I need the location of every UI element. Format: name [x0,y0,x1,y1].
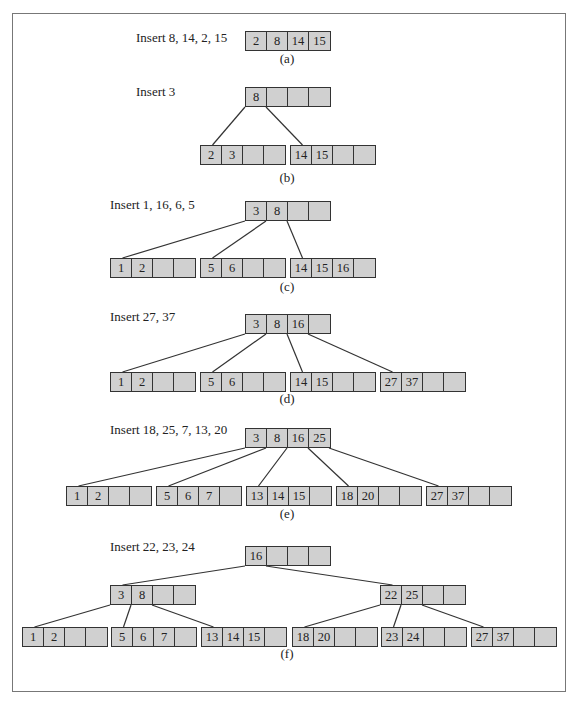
empty-key-slot [469,487,490,505]
node-key: 25 [309,429,330,447]
btree-node: 12 [22,627,108,647]
node-key: 13 [202,628,223,646]
btree-node: 1415 [290,145,376,165]
node-key: 20 [358,487,379,505]
node-key: 15 [312,146,333,164]
btree-node: 2324 [381,627,467,647]
btree-node: 1415 [290,372,376,392]
step-label-e: Insert 18, 25, 7, 13, 20 [110,422,227,438]
empty-key-slot [265,628,286,646]
empty-key-slot [335,628,356,646]
node-key: 3 [222,146,243,164]
step-label-b: Insert 3 [136,84,175,100]
empty-key-slot [309,88,330,106]
node-key: 1 [111,373,132,391]
node-key: 37 [448,487,469,505]
empty-key-slot [309,202,330,220]
node-key: 14 [288,32,309,50]
empty-key-slot [354,259,375,277]
node-key: 1 [67,487,88,505]
btree-node: 2225 [380,585,466,605]
empty-key-slot [264,146,285,164]
empty-key-slot [220,487,241,505]
panel-caption-f: (f) [281,646,294,662]
empty-key-slot [153,259,174,277]
node-key: 20 [314,628,335,646]
btree-node: 16 [245,546,331,566]
node-key: 6 [133,628,154,646]
empty-key-slot [445,628,466,646]
btree-node: 8 [245,87,331,107]
btree-node: 1820 [292,627,378,647]
node-key: 2 [88,487,109,505]
node-key: 16 [333,259,354,277]
btree-node: 1820 [336,486,422,506]
empty-key-slot [153,586,174,604]
empty-key-slot [153,373,174,391]
node-key: 2 [132,373,153,391]
empty-key-slot [174,259,195,277]
empty-key-slot [174,586,195,604]
empty-key-slot [535,628,556,646]
btree-node: 2737 [471,627,557,647]
empty-key-slot [444,586,465,604]
node-key: 1 [23,628,44,646]
node-key: 8 [267,202,288,220]
empty-key-slot [354,146,375,164]
node-key: 15 [289,487,310,505]
empty-key-slot [514,628,535,646]
node-key: 37 [402,373,423,391]
step-label-a: Insert 8, 14, 2, 15 [136,30,227,46]
node-key: 14 [268,487,289,505]
node-key: 18 [293,628,314,646]
btree-node: 3816 [245,314,331,334]
empty-key-slot [424,628,445,646]
node-key: 25 [402,586,423,604]
empty-key-slot [309,547,330,565]
empty-key-slot [130,487,151,505]
btree-node: 2737 [426,486,512,506]
node-key: 16 [288,315,309,333]
btree-node: 2737 [380,372,466,392]
node-key: 15 [244,628,265,646]
node-key: 8 [267,315,288,333]
node-key: 16 [246,547,267,565]
node-key: 14 [291,146,312,164]
btree-node: 567 [111,627,197,647]
node-key: 27 [472,628,493,646]
empty-key-slot [243,259,264,277]
empty-key-slot [267,88,288,106]
empty-key-slot [423,586,444,604]
btree-node: 56 [200,258,286,278]
node-key: 15 [312,259,333,277]
node-key: 2 [44,628,65,646]
node-key: 15 [309,32,330,50]
node-key: 3 [111,586,132,604]
node-key: 8 [246,88,267,106]
step-label-d: Insert 27, 37 [110,309,175,325]
node-key: 5 [201,373,222,391]
node-key: 3 [246,315,267,333]
btree-node: 567 [156,486,242,506]
btree-node: 38 [245,201,331,221]
btree-node: 56 [200,372,286,392]
empty-key-slot [400,487,421,505]
node-key: 6 [222,259,243,277]
node-key: 1 [111,259,132,277]
btree-node: 131415 [201,627,287,647]
empty-key-slot [490,487,511,505]
panel-caption-a: (a) [280,51,294,67]
btree-node: 12 [110,258,196,278]
empty-key-slot [333,146,354,164]
empty-key-slot [310,487,331,505]
node-key: 14 [223,628,244,646]
figure-frame [12,13,566,692]
empty-key-slot [65,628,86,646]
node-key: 2 [201,146,222,164]
node-key: 22 [381,586,402,604]
node-key: 5 [201,259,222,277]
node-key: 8 [267,429,288,447]
btree-node: 281415 [245,31,331,51]
btree-node: 23 [200,145,286,165]
btree-node: 12 [110,372,196,392]
